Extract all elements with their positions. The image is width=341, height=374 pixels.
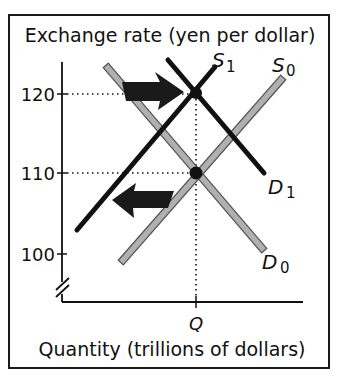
equilibrium-point-new (190, 87, 202, 99)
svg-text:1: 1 (286, 184, 296, 202)
label-s1: S 1 (212, 48, 236, 76)
arrow-right-icon (122, 72, 184, 110)
svg-text:0: 0 (280, 259, 290, 277)
equilibrium-point-initial (190, 167, 203, 180)
y-tick-label-120: 120 (21, 84, 55, 105)
exchange-rate-diagram: Exchange rate (yen per dollar) 120 110 1… (0, 0, 341, 374)
svg-text:S: S (212, 48, 225, 72)
y-axis-title: Exchange rate (yen per dollar) (25, 24, 316, 46)
y-tick-label-100: 100 (21, 244, 55, 265)
svg-text:1: 1 (226, 58, 236, 76)
svg-text:S: S (272, 53, 285, 77)
x-tick-label-q: Q (189, 313, 203, 334)
x-axis-title: Quantity (trillions of dollars) (39, 338, 306, 360)
svg-text:D: D (262, 250, 277, 274)
label-d1: D 1 (268, 175, 296, 202)
svg-text:0: 0 (286, 62, 296, 80)
y-tick-label-110: 110 (21, 163, 55, 184)
label-d0: D 0 (262, 250, 290, 277)
curve-s0 (123, 80, 281, 260)
svg-text:D: D (268, 175, 283, 199)
label-s0: S 0 (272, 53, 296, 80)
